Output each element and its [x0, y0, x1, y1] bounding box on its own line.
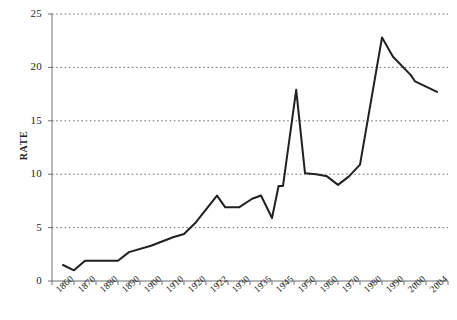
plot-area: [0, 0, 457, 320]
y-axis-tick-label: 25: [16, 7, 42, 19]
y-axis-tick-label: 5: [16, 221, 42, 233]
data-series-line: [63, 38, 437, 271]
line-chart: RATE 0510152025 186018701880189019001910…: [0, 0, 457, 320]
gridlines: [48, 14, 448, 281]
y-axis-tick-label: 20: [16, 60, 42, 72]
y-axis-tick-label: 0: [16, 274, 42, 286]
y-axis-tick-label: 10: [16, 167, 42, 179]
y-axis-tick-label: 15: [16, 114, 42, 126]
